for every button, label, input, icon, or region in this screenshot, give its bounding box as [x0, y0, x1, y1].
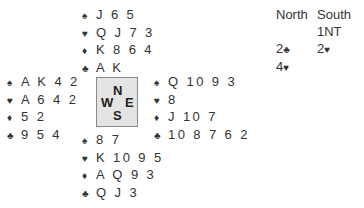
diamond-icon: ♦ [7, 110, 21, 127]
heart-icon: ♥ [283, 62, 289, 73]
compass-box: N W E S [96, 77, 138, 127]
west-clubs: ♣9 5 4 [7, 127, 80, 145]
south-spades: ♠8 7 [82, 132, 164, 150]
auction-header: North South [276, 7, 357, 24]
diamond-icon: ♦ [82, 43, 96, 60]
east-hearts: ♥8 [154, 92, 250, 110]
diamond-icon: ♦ [154, 110, 168, 127]
south-clubs: ♣Q J 3 [82, 185, 164, 203]
diamond-icon: ♦ [82, 168, 96, 185]
heart-icon: ♥ [324, 44, 330, 55]
heart-icon: ♥ [7, 93, 21, 110]
compass-south: S [113, 108, 122, 123]
spade-icon: ♠ [82, 133, 96, 150]
north-hearts: ♥Q J 7 3 [82, 25, 155, 43]
east-hand: ♠Q 10 9 3 ♥8 ♦J 10 7 ♣10 8 7 6 2 [154, 74, 250, 144]
spade-icon: ♠ [154, 75, 168, 92]
east-diamonds: ♦J 10 7 [154, 109, 250, 127]
auction-header-south: South [317, 7, 357, 24]
spade-icon: ♠ [82, 8, 96, 25]
compass-north: N [113, 83, 122, 98]
east-spades: ♠Q 10 9 3 [154, 74, 250, 92]
auction-table: North South 1NT 2♣ 2♥ 4♥ [276, 7, 357, 76]
south-hearts: ♥K 10 9 5 [82, 150, 164, 168]
spade-icon: ♠ [7, 75, 21, 92]
auction-row: 1NT [276, 24, 357, 42]
north-diamonds: ♦K 8 6 4 [82, 42, 155, 60]
west-hand: ♠A K 4 2 ♥A 6 4 2 ♦5 2 ♣9 5 4 [7, 74, 80, 144]
auction-bid: 2♣ [276, 41, 317, 59]
west-hearts: ♥A 6 4 2 [7, 92, 80, 110]
north-clubs: ♣A K [82, 60, 155, 78]
auction-bid: 1NT [317, 24, 357, 42]
heart-icon: ♥ [82, 151, 96, 168]
west-spades: ♠A K 4 2 [7, 74, 80, 92]
club-icon: ♣ [7, 128, 21, 145]
heart-icon: ♥ [82, 26, 96, 43]
club-icon: ♣ [283, 44, 290, 55]
auction-bid: 4♥ [276, 59, 317, 77]
auction-bid [276, 24, 317, 42]
auction-row: 4♥ [276, 59, 357, 77]
east-clubs: ♣10 8 7 6 2 [154, 127, 250, 145]
compass-west: W [101, 95, 113, 110]
auction-bid: 2♥ [317, 41, 357, 59]
compass-east: E [125, 95, 134, 110]
auction-header-north: North [276, 7, 317, 24]
auction-row: 2♣ 2♥ [276, 41, 357, 59]
auction-bid [317, 59, 357, 77]
heart-icon: ♥ [154, 93, 168, 110]
north-spades: ♠J 6 5 [82, 7, 155, 25]
south-hand: ♠8 7 ♥K 10 9 5 ♦A Q 9 3 ♣Q J 3 [82, 132, 164, 202]
club-icon: ♣ [82, 61, 96, 78]
north-hand: ♠J 6 5 ♥Q J 7 3 ♦K 8 6 4 ♣A K [82, 7, 155, 77]
club-icon: ♣ [82, 186, 96, 203]
south-diamonds: ♦A Q 9 3 [82, 167, 164, 185]
west-diamonds: ♦5 2 [7, 109, 80, 127]
